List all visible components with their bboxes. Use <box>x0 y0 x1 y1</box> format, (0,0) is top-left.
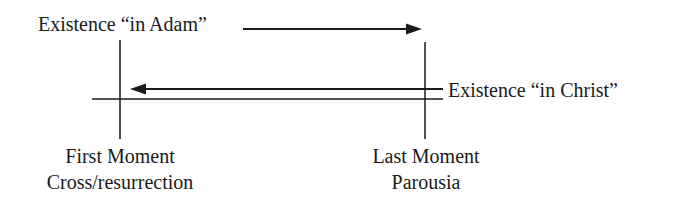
christ-arrow <box>130 84 443 95</box>
first-moment-subtitle: Cross/resurrection <box>47 169 194 195</box>
adam-arrow <box>243 24 422 35</box>
arrowhead-right-icon <box>406 24 422 35</box>
first-moment-label: First Moment Cross/resurrection <box>47 143 194 195</box>
first-moment-title: First Moment <box>47 143 194 169</box>
last-moment-label: Last Moment Parousia <box>372 143 479 195</box>
two-age-diagram: Existence “in Adam” Existence “in Christ… <box>0 0 692 202</box>
arrowhead-left-icon <box>130 84 146 95</box>
adam-label: Existence “in Adam” <box>38 11 207 37</box>
last-moment-subtitle: Parousia <box>372 169 479 195</box>
christ-label: Existence “in Christ” <box>448 77 618 103</box>
last-moment-title: Last Moment <box>372 143 479 169</box>
